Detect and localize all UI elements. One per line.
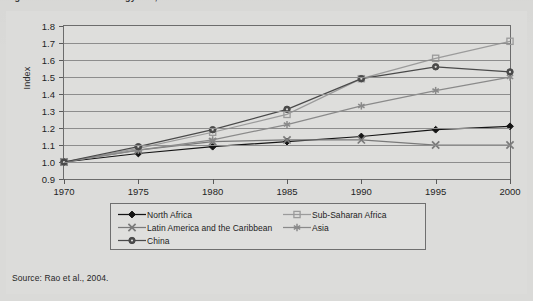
legend-item[interactable]: Sub-Saharan Africa bbox=[282, 209, 420, 220]
y-tick-label: 1.5 bbox=[31, 72, 55, 83]
legend-key-cross-x-icon bbox=[117, 222, 147, 233]
y-tick-mark bbox=[59, 77, 63, 78]
x-tick-label: 1995 bbox=[416, 186, 456, 197]
series-asia bbox=[61, 73, 513, 165]
series-layer bbox=[64, 26, 510, 179]
data-point-filled-circle bbox=[129, 237, 135, 243]
grid-line bbox=[64, 162, 510, 163]
grid-line bbox=[64, 128, 510, 129]
x-tick-label: 1980 bbox=[193, 186, 233, 197]
y-tick-label: 1.7 bbox=[31, 38, 55, 49]
legend-label: Sub-Saharan Africa bbox=[312, 210, 387, 220]
grid-line bbox=[64, 77, 510, 78]
y-tick-mark bbox=[59, 162, 63, 163]
y-tick-mark bbox=[59, 26, 63, 27]
data-point-filled-circle bbox=[432, 64, 438, 70]
legend-item[interactable]: Latin America and the Caribbean bbox=[117, 222, 282, 233]
y-tick-mark bbox=[59, 179, 63, 180]
grid-line bbox=[64, 111, 510, 112]
grid-line bbox=[64, 43, 510, 44]
grid-line bbox=[64, 60, 510, 61]
legend-key-asterisk-icon bbox=[282, 222, 312, 233]
y-tick-mark bbox=[59, 111, 63, 112]
figure-body: Index 0.91.01.11.21.31.41.51.61.71.8 197… bbox=[6, 11, 527, 294]
plot-container: Index 0.91.01.11.21.31.41.51.61.71.8 197… bbox=[6, 11, 527, 186]
legend-label: China bbox=[147, 236, 169, 246]
x-tick-mark bbox=[361, 179, 362, 184]
x-tick-mark bbox=[287, 179, 288, 184]
x-tick-label: 1985 bbox=[267, 186, 307, 197]
legend-row: China bbox=[117, 234, 421, 247]
legend-key-filled-circle-icon bbox=[117, 235, 147, 246]
x-tick-label: 1975 bbox=[118, 186, 158, 197]
y-tick-label: 1.3 bbox=[31, 106, 55, 117]
legend-key-open-square-icon bbox=[282, 209, 312, 220]
y-tick-label: 1.6 bbox=[31, 55, 55, 66]
source-note: Source: Rao et al., 2004. bbox=[12, 273, 109, 283]
y-tick-mark bbox=[59, 60, 63, 61]
legend-label: North Africa bbox=[147, 210, 192, 220]
data-point-filled-circle bbox=[507, 69, 513, 75]
grid-line bbox=[64, 94, 510, 95]
legend-label: Latin America and the Caribbean bbox=[147, 223, 272, 233]
legend-item[interactable]: North Africa bbox=[117, 209, 282, 220]
y-tick-label: 1.1 bbox=[31, 140, 55, 151]
y-tick-label: 1.2 bbox=[31, 123, 55, 134]
y-tick-mark bbox=[59, 145, 63, 146]
x-tick-mark bbox=[138, 179, 139, 184]
x-tick-label: 2000 bbox=[490, 186, 530, 197]
y-tick-label: 1.8 bbox=[31, 21, 55, 32]
legend-entries: North AfricaSub-Saharan AfricaLatin Amer… bbox=[117, 208, 421, 247]
plot-area bbox=[63, 25, 511, 180]
chart-legend: North AfricaSub-Saharan AfricaLatin Amer… bbox=[110, 203, 426, 250]
x-tick-mark bbox=[436, 179, 437, 184]
grid-line bbox=[64, 145, 510, 146]
x-tick-label: 1990 bbox=[341, 186, 381, 197]
figure-title: Figure 4.1 Increase in energy use, 1970–… bbox=[6, 0, 207, 2]
y-tick-mark bbox=[59, 128, 63, 129]
x-tick-mark bbox=[64, 179, 65, 184]
y-tick-mark bbox=[59, 43, 63, 44]
figure-page: Figure 4.1 Increase in energy use, 1970–… bbox=[0, 0, 533, 301]
legend-row: North AfricaSub-Saharan Africa bbox=[117, 208, 421, 221]
y-tick-label: 1.0 bbox=[31, 157, 55, 168]
series-sub-saharan-africa bbox=[61, 38, 513, 165]
x-tick-mark bbox=[510, 179, 511, 184]
y-tick-label: 1.4 bbox=[31, 89, 55, 100]
data-point-filled-diamond bbox=[129, 211, 136, 218]
y-tick-label: 0.9 bbox=[31, 174, 55, 185]
legend-key-filled-diamond-icon bbox=[117, 209, 147, 220]
legend-row: Latin America and the CaribbeanAsia bbox=[117, 221, 421, 234]
y-tick-mark bbox=[59, 94, 63, 95]
x-tick-mark bbox=[213, 179, 214, 184]
figure-title-strip: Figure 4.1 Increase in energy use, 1970–… bbox=[0, 0, 533, 9]
legend-item[interactable]: Asia bbox=[282, 222, 420, 233]
legend-item[interactable]: China bbox=[117, 235, 282, 246]
legend-label: Asia bbox=[312, 223, 329, 233]
x-tick-label: 1970 bbox=[44, 186, 84, 197]
